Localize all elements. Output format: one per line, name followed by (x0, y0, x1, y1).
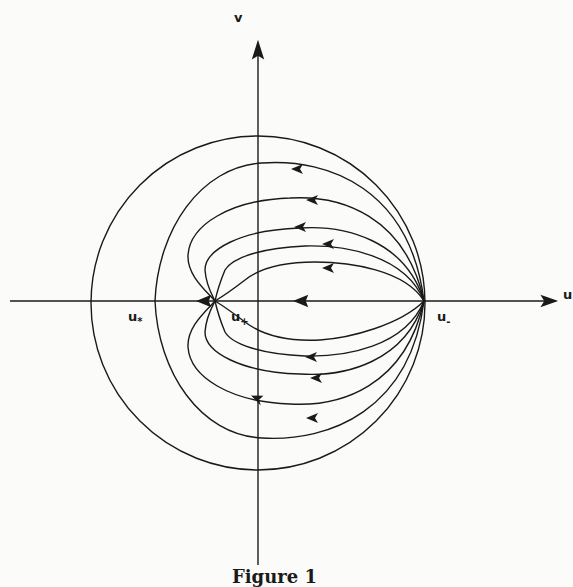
figure-caption: Figure 1 (232, 566, 317, 587)
u-plus-label: u+ (231, 309, 249, 327)
u-minus-label: u- (437, 309, 450, 327)
v-axis-label: v (234, 10, 242, 25)
u-star-label: u* (128, 309, 143, 327)
u-axis-label: u (563, 287, 572, 302)
flow-arrows (249, 164, 334, 423)
